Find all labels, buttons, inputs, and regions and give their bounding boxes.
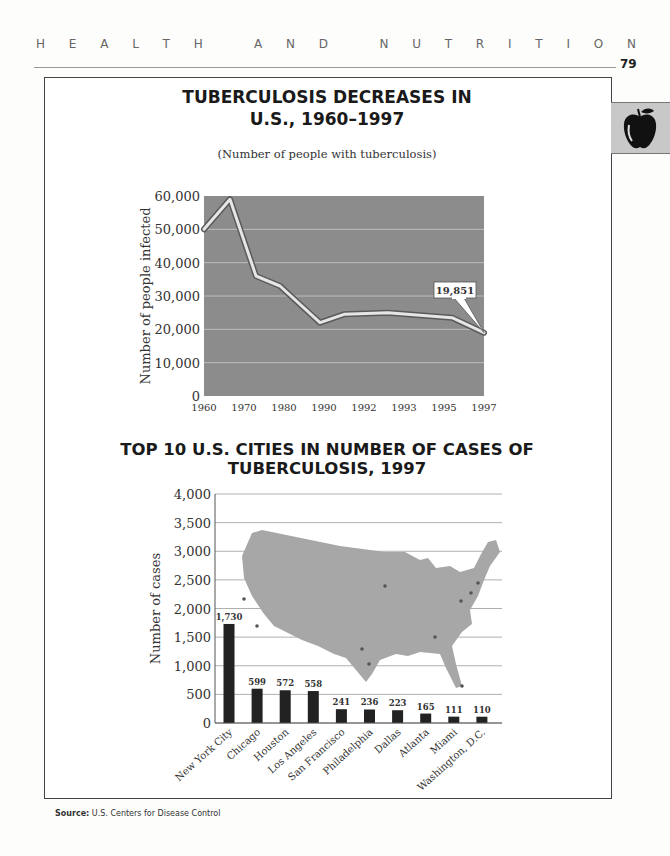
city-dot xyxy=(469,591,473,595)
bar xyxy=(308,691,319,723)
bar-value-label: 1,730 xyxy=(216,612,243,623)
bar-value-label: 572 xyxy=(276,678,294,688)
city-dot xyxy=(255,624,259,628)
bar xyxy=(336,709,347,723)
bar-value-label: 236 xyxy=(361,697,379,707)
bar-chart: 05001,0001,5002,0002,5003,0003,5004,0001… xyxy=(0,0,670,856)
y-tick-label: 1,500 xyxy=(174,630,211,645)
y-tick-label: 2,000 xyxy=(174,602,211,617)
city-dot xyxy=(367,662,371,666)
bar-value-label: 110 xyxy=(473,705,491,715)
us-map-image xyxy=(242,530,500,688)
bar-value-label: 223 xyxy=(389,698,407,708)
bar-value-label: 111 xyxy=(445,705,463,715)
city-dot xyxy=(459,599,463,603)
city-dot xyxy=(383,584,387,588)
bar-value-label: 599 xyxy=(248,677,266,687)
bar xyxy=(392,710,403,723)
bar xyxy=(420,714,431,723)
bar xyxy=(252,689,263,723)
bar xyxy=(448,717,459,723)
y-tick-label: 3,000 xyxy=(174,544,211,559)
bar xyxy=(476,717,487,723)
y-tick-label: 500 xyxy=(186,687,211,702)
x-category-label: Philadelphia xyxy=(321,726,375,776)
y-tick-label: 1,000 xyxy=(174,659,211,674)
x-category-label: Atlanta xyxy=(396,726,431,759)
y-tick-label: 0 xyxy=(203,716,211,731)
y-tick-label: 4,000 xyxy=(174,487,211,502)
city-dot xyxy=(460,684,464,688)
source-label: Source: xyxy=(55,809,89,818)
bar xyxy=(224,624,235,723)
bar xyxy=(280,690,291,723)
city-dot xyxy=(433,635,437,639)
bar xyxy=(364,709,375,723)
y-axis-label: Number of cases xyxy=(148,553,163,664)
y-tick-label: 3,500 xyxy=(174,516,211,531)
bar-value-label: 165 xyxy=(417,702,435,712)
city-dot xyxy=(476,581,480,585)
city-dot xyxy=(242,597,246,601)
bar-value-label: 558 xyxy=(304,679,322,689)
source-note: Source: U.S. Centers for Disease Control xyxy=(55,809,220,818)
bar-value-label: 241 xyxy=(333,697,351,707)
y-tick-label: 2,500 xyxy=(174,573,211,588)
source-text: U.S. Centers for Disease Control xyxy=(92,809,221,818)
city-dot xyxy=(360,647,364,651)
